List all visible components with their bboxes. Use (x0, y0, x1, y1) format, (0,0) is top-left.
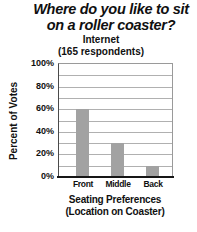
chart-title: Where do you like to sit on a roller coa… (28, 1, 194, 33)
plot-area (58, 63, 173, 177)
y-tick-label: 40% (0, 126, 54, 136)
chart-title-line1: Where do you like to sit (28, 1, 194, 17)
y-tick-label: 0% (0, 171, 54, 181)
gridline (59, 87, 172, 88)
y-tick-label: 20% (0, 148, 54, 158)
x-axis-line (57, 176, 174, 178)
bar-middle (111, 143, 124, 177)
x-axis-title-line2: (Location on Coaster) (33, 206, 197, 218)
y-tick-label: 80% (0, 81, 54, 91)
chart-page: Where do you like to sit on a roller coa… (0, 0, 197, 232)
bar-front (76, 109, 89, 177)
y-tick-label: 100% (0, 58, 54, 68)
x-axis-title-line1: Seating Preferences (33, 194, 197, 206)
chart-title-line2: on a roller coaster? (28, 17, 194, 33)
x-axis-title: Seating Preferences (Location on Coaster… (33, 194, 197, 217)
gridline (59, 98, 172, 99)
y-tick-label: 60% (0, 103, 54, 113)
chart-subtitle: Internet (165 respondents) (19, 34, 183, 57)
gridline (59, 75, 172, 76)
chart-subtitle-line2: (165 respondents) (19, 46, 183, 58)
x-tick-label: Back (132, 180, 174, 189)
chart-subtitle-line1: Internet (19, 34, 183, 46)
